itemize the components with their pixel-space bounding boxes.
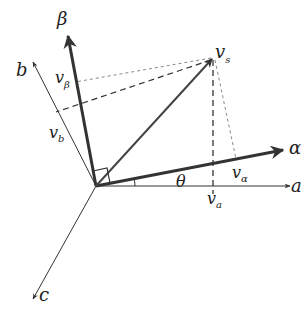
label-valpha: vα bbox=[232, 163, 248, 184]
labels: β b c a α θ vs vβ vb vα va bbox=[16, 8, 302, 305]
projection-lines bbox=[56, 58, 236, 194]
axis-c bbox=[33, 186, 96, 299]
label-a: a bbox=[291, 175, 302, 196]
label-vb: vb bbox=[49, 123, 64, 144]
projection-vbeta-line bbox=[75, 58, 211, 82]
label-va: va bbox=[207, 189, 222, 210]
alpha-beta-axes bbox=[68, 36, 283, 186]
projection-valpha-line bbox=[215, 60, 236, 159]
vector-diagram: β b c a α θ vs vβ vb vα va bbox=[0, 0, 304, 312]
label-b: b bbox=[16, 59, 28, 80]
label-theta: θ bbox=[176, 172, 186, 191]
label-vs: vs bbox=[215, 41, 230, 65]
abc-axes bbox=[33, 62, 290, 299]
label-vbeta: vβ bbox=[55, 68, 70, 90]
label-beta: β bbox=[56, 8, 67, 29]
label-alpha: α bbox=[289, 137, 301, 158]
label-c: c bbox=[39, 284, 49, 305]
axis-beta bbox=[68, 36, 96, 186]
